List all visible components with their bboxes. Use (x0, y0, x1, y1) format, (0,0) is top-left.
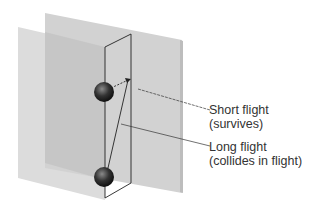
label-long-note: (collides in flight) (209, 154, 302, 168)
label-short-flight: Short flight (survives) (209, 103, 269, 131)
right-plane-edge (180, 40, 183, 193)
ball-bottom (94, 167, 114, 187)
label-short-title: Short flight (209, 103, 269, 117)
ball-top (94, 82, 114, 102)
label-long-title: Long flight (209, 140, 302, 154)
label-short-note: (survives) (209, 117, 269, 131)
diagram-canvas: Short flight (survives) Long flight (col… (0, 0, 312, 206)
overlap-region (45, 32, 105, 180)
label-long-flight: Long flight (collides in flight) (209, 140, 302, 168)
